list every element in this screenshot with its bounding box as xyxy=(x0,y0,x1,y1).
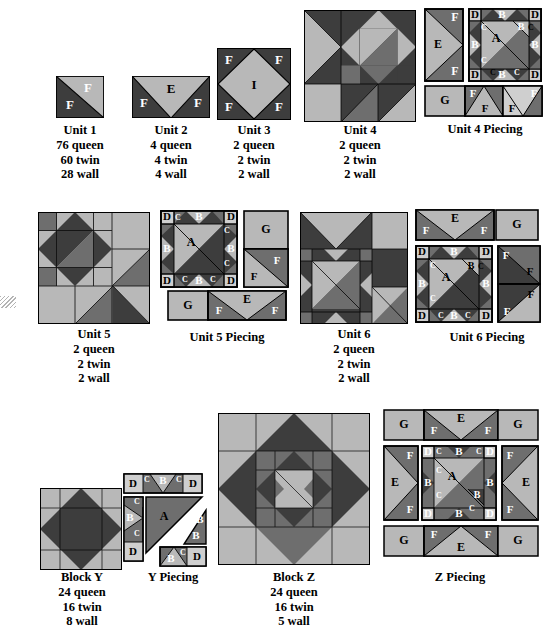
svg-text:F: F xyxy=(274,254,281,266)
svg-text:C: C xyxy=(182,275,188,284)
unit-2-figure: F E F xyxy=(132,76,210,118)
unit-4-caption: Unit 4 2 queen 2 twin 2 wall xyxy=(308,123,412,182)
block-z-svg xyxy=(218,413,370,565)
svg-text:G: G xyxy=(261,222,270,236)
block-z-caption: Block Z 24 queen 16 twin 5 wall xyxy=(242,570,346,629)
svg-text:F: F xyxy=(251,270,258,282)
svg-text:F: F xyxy=(485,528,492,540)
svg-text:F: F xyxy=(423,224,430,236)
svg-text:A: A xyxy=(442,270,451,284)
patch-label-F: F xyxy=(275,99,283,114)
unit-3-figure: F F I F F xyxy=(217,48,291,120)
unit-3-title: Unit 3 xyxy=(202,123,306,138)
svg-text:A: A xyxy=(160,509,169,523)
svg-text:B: B xyxy=(450,245,458,257)
svg-text:C: C xyxy=(224,259,230,268)
unit-1-svg: F F xyxy=(56,76,104,118)
svg-text:E: E xyxy=(243,292,251,306)
svg-text:B: B xyxy=(167,552,175,564)
unit-3-queen: 2 queen xyxy=(202,138,306,153)
svg-text:B: B xyxy=(163,242,171,254)
block-y-svg xyxy=(40,488,122,570)
svg-text:F: F xyxy=(485,424,492,436)
patch-label-F: F xyxy=(225,52,233,67)
svg-text:D: D xyxy=(227,210,235,222)
svg-text:F: F xyxy=(531,87,538,99)
unit-1-wall: 28 wall xyxy=(30,167,130,182)
svg-text:F: F xyxy=(216,304,223,316)
patch-label-I: I xyxy=(251,77,256,92)
svg-text:D: D xyxy=(471,8,479,20)
unit-6-wall: 2 wall xyxy=(300,371,408,386)
svg-text:C: C xyxy=(144,475,150,484)
svg-text:F: F xyxy=(482,102,489,114)
svg-text:D: D xyxy=(424,445,432,457)
svg-text:C: C xyxy=(224,226,230,235)
diagram-sheet: F F Unit 1 76 queen 60 twin 28 wall F E … xyxy=(0,0,549,644)
svg-text:B: B xyxy=(498,8,506,20)
piece-bottom-strip: G F F xyxy=(425,86,542,116)
unit-4-title: Unit 4 xyxy=(308,123,412,138)
svg-text:B: B xyxy=(518,21,525,32)
unit-2-svg: F E F xyxy=(132,76,210,118)
z-piecing-caption: Z Piecing xyxy=(405,570,515,585)
unit-4-piecing-svg: F E F xyxy=(424,8,544,120)
svg-text:D: D xyxy=(163,274,171,286)
unit-4-piecing-figure: F E F xyxy=(424,8,544,120)
svg-text:G: G xyxy=(513,533,522,547)
unit-3-caption: Unit 3 2 queen 2 twin 2 wall xyxy=(202,123,306,182)
svg-text:D: D xyxy=(418,245,426,257)
unit-5-piecing-caption: Unit 5 Piecing xyxy=(165,330,289,345)
svg-text:B: B xyxy=(192,529,200,541)
svg-text:E: E xyxy=(457,411,465,425)
unit-5-queen: 2 queen xyxy=(40,342,148,357)
unit-4-figure xyxy=(304,10,416,122)
piece-E-rect: F E F xyxy=(425,9,463,81)
svg-text:C: C xyxy=(175,213,181,222)
svg-text:C: C xyxy=(528,23,534,32)
svg-text:G: G xyxy=(399,533,408,547)
unit-4-wall: 2 wall xyxy=(308,167,412,182)
unit-4-twin: 2 twin xyxy=(308,153,412,168)
unit-5-figure xyxy=(38,212,150,324)
z-piecing-figure: G F E F G xyxy=(382,408,542,568)
unit-5-caption: Unit 5 2 queen 2 twin 2 wall xyxy=(40,327,148,386)
svg-text:C: C xyxy=(481,56,487,65)
svg-text:B: B xyxy=(424,476,432,488)
svg-text:A: A xyxy=(492,31,501,45)
svg-text:C: C xyxy=(490,68,496,77)
svg-text:G: G xyxy=(513,417,522,431)
svg-text:C: C xyxy=(514,68,520,77)
unit-6-svg xyxy=(300,212,408,324)
svg-text:E: E xyxy=(391,475,399,489)
svg-text:F: F xyxy=(431,424,438,436)
svg-text:D: D xyxy=(418,309,426,321)
svg-text:F: F xyxy=(509,102,516,114)
svg-text:C: C xyxy=(465,311,471,320)
unit-6-twin: 2 twin xyxy=(300,357,408,372)
svg-text:D: D xyxy=(424,507,432,519)
svg-text:B: B xyxy=(531,38,539,50)
svg-text:C: C xyxy=(481,23,487,32)
unit-6-piecing-caption: Unit 6 Piecing xyxy=(425,330,549,345)
svg-text:B: B xyxy=(482,277,490,289)
patch-label-F: F xyxy=(225,99,233,114)
unit-4-queen: 2 queen xyxy=(308,138,412,153)
unit-1-caption: Unit 1 76 queen 60 twin 28 wall xyxy=(30,123,130,182)
svg-text:B: B xyxy=(195,210,203,222)
svg-text:D: D xyxy=(471,68,479,80)
patch-label-F: F xyxy=(84,80,92,95)
svg-text:D: D xyxy=(486,445,494,457)
svg-text:G: G xyxy=(399,417,408,431)
svg-text:F: F xyxy=(527,265,534,277)
unit-6-caption: Unit 6 2 queen 2 twin 2 wall xyxy=(300,327,408,386)
svg-text:C: C xyxy=(436,447,442,456)
svg-text:F: F xyxy=(503,249,510,261)
y-piecing-title: Y Piecing xyxy=(124,570,222,585)
svg-text:B: B xyxy=(498,68,506,80)
patch-label-F: F xyxy=(140,95,148,110)
svg-text:C: C xyxy=(476,447,482,456)
svg-text:G: G xyxy=(183,298,192,312)
svg-text:C: C xyxy=(438,311,444,320)
unit-1-figure: F F xyxy=(56,76,104,118)
